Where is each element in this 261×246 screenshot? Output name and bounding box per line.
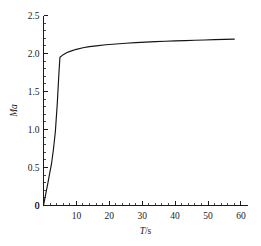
x-tick-label: 30 (137, 211, 147, 221)
mach-number-vs-time-plot: 00.51.01.52.02.5 0102030405060 Ma T/s (0, 0, 261, 246)
mach-number-curve (44, 39, 235, 205)
y-tick-label: 1.5 (28, 87, 40, 97)
y-tick-label: 0.5 (28, 163, 40, 173)
x-tick-label: 10 (72, 211, 82, 221)
x-tick-label: 50 (203, 211, 213, 221)
data-series-group (44, 39, 235, 205)
x-tick-label: 60 (236, 211, 246, 221)
y-tick-label: 1.0 (28, 125, 40, 135)
x-axis-title: T/s (140, 226, 152, 236)
y-axis-tick-labels: 00.51.01.52.02.5 (28, 11, 40, 211)
x-tick-label: 40 (170, 211, 180, 221)
y-tick-label: 2.0 (28, 49, 40, 59)
y-tick-label: 2.5 (28, 11, 40, 21)
y-axis-title: Ma (9, 104, 19, 118)
axes (44, 16, 248, 206)
chart-figure: 00.51.01.52.02.5 0102030405060 Ma T/s (0, 0, 261, 246)
svg-text:T/s: T/s (140, 226, 152, 236)
x-axis-major-ticks (44, 201, 241, 206)
x-tick-label: 0 (35, 201, 40, 211)
x-tick-label: 20 (105, 211, 115, 221)
y-axis-major-ticks (44, 16, 49, 206)
